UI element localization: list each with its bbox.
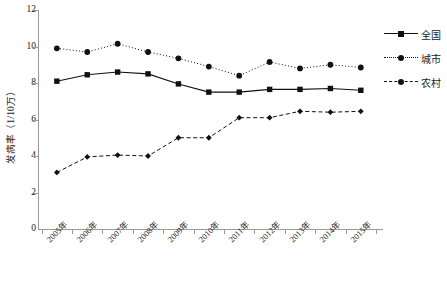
data-point-marker — [176, 55, 182, 61]
x-tick-label: 2011年 — [225, 218, 252, 245]
y-axis-line — [38, 10, 39, 230]
y-tick-mark — [33, 10, 38, 11]
y-tick-label: 0 — [14, 224, 36, 234]
x-tick-mark — [315, 230, 316, 234]
x-tick-mark — [72, 230, 73, 234]
x-tick-mark — [42, 230, 43, 234]
legend-item-全国[interactable]: 全国 — [384, 22, 447, 46]
data-point-marker — [236, 73, 242, 79]
data-point-marker — [206, 89, 211, 94]
y-tick-mark — [33, 156, 38, 157]
series-line — [57, 111, 361, 172]
legend-item-农村[interactable]: 农村 — [384, 70, 447, 94]
legend-item-城市[interactable]: 城市 — [384, 46, 447, 70]
data-point-marker — [328, 109, 334, 115]
data-point-marker — [206, 135, 212, 141]
series-plot-area — [0, 0, 447, 282]
legend-label: 城市 — [421, 51, 441, 66]
data-point-marker — [54, 78, 59, 83]
data-point-marker — [236, 115, 242, 121]
data-point-marker — [145, 49, 151, 55]
data-point-marker — [328, 62, 334, 68]
x-tick-label: 2014年 — [316, 218, 343, 245]
x-tick-label: 2015年 — [347, 218, 374, 245]
legend-swatch-icon — [384, 53, 418, 63]
data-point-marker — [358, 65, 364, 71]
x-tick-label: 2013年 — [286, 218, 313, 245]
y-axis-tick-labels: 024681012 — [10, 0, 36, 282]
data-point-marker — [176, 81, 181, 86]
data-point-marker — [54, 170, 60, 176]
x-tick-mark — [133, 230, 134, 234]
data-point-marker — [84, 154, 90, 160]
series-line — [57, 44, 361, 76]
data-point-marker — [84, 49, 90, 55]
x-tick-mark — [194, 230, 195, 234]
legend-label: 全国 — [421, 27, 441, 42]
data-point-marker — [267, 59, 273, 65]
legend-swatch-icon — [384, 77, 418, 87]
x-tick-label: 2008年 — [134, 218, 161, 245]
series-农村 — [54, 108, 364, 175]
legend-marker-icon — [398, 31, 404, 37]
data-point-marker — [115, 41, 121, 47]
series-line — [57, 72, 361, 92]
y-tick-mark — [33, 83, 38, 84]
x-tick-label: 2006年 — [73, 218, 100, 245]
legend-marker-icon — [398, 79, 404, 85]
data-point-marker — [176, 135, 182, 141]
data-point-marker — [358, 88, 363, 93]
data-point-marker — [85, 72, 90, 77]
x-tick-label: 2010年 — [195, 218, 222, 245]
legend-marker-icon — [398, 55, 404, 61]
legend-label: 农村 — [421, 75, 441, 90]
y-tick-mark — [33, 120, 38, 121]
data-point-marker — [145, 153, 151, 159]
data-point-marker — [297, 108, 303, 114]
x-tick-mark — [224, 230, 225, 234]
x-tick-mark — [102, 230, 103, 234]
chart-figure: 发病率（1/10万） 024681012 2005年2006年2007年2008… — [0, 0, 447, 282]
x-tick-mark — [285, 230, 286, 234]
data-point-marker — [145, 71, 150, 76]
x-tick-label: 2012年 — [256, 218, 283, 245]
data-point-marker — [297, 66, 303, 72]
x-tick-label: 2007年 — [104, 218, 131, 245]
data-point-marker — [297, 87, 302, 92]
x-tick-label: 2009年 — [164, 218, 191, 245]
y-tick-mark — [33, 193, 38, 194]
series-全国 — [54, 69, 363, 94]
x-tick-mark — [163, 230, 164, 234]
chart-legend: 全国城市农村 — [384, 22, 447, 94]
data-point-marker — [237, 89, 242, 94]
data-point-marker — [267, 115, 273, 121]
legend-swatch-icon — [384, 29, 418, 39]
data-point-marker — [115, 69, 120, 74]
data-point-marker — [54, 45, 60, 51]
data-point-marker — [115, 152, 121, 158]
data-point-marker — [358, 108, 364, 114]
series-城市 — [54, 41, 364, 79]
x-tick-mark — [376, 230, 377, 234]
x-tick-mark — [254, 230, 255, 234]
x-tick-mark — [346, 230, 347, 234]
y-tick-mark — [33, 47, 38, 48]
x-tick-label: 2005年 — [43, 218, 70, 245]
data-point-marker — [328, 86, 333, 91]
data-point-marker — [267, 87, 272, 92]
data-point-marker — [206, 64, 212, 70]
